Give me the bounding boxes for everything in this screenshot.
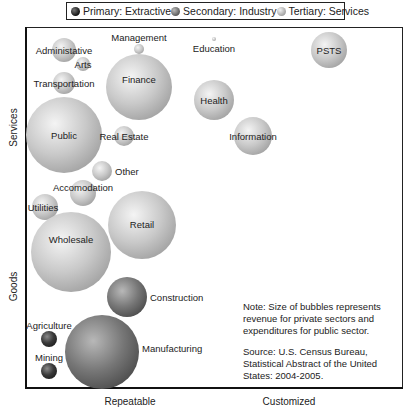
bubble-agriculture xyxy=(41,331,57,347)
bubble-label: Construction xyxy=(150,292,203,303)
legend-label: Tertiary: Services xyxy=(289,5,370,17)
bubble-construction xyxy=(107,277,147,317)
bubble-label: Retail xyxy=(130,219,154,230)
bubble-label: Accomodation xyxy=(53,182,113,193)
bubble-finance xyxy=(106,54,172,120)
bubble-label: Manufacturing xyxy=(142,343,202,354)
bubble-label: Health xyxy=(200,95,227,106)
bubble-label: Transportation xyxy=(34,78,95,89)
y-axis-label-services: Services xyxy=(8,108,19,148)
bubble-label: Other xyxy=(115,166,139,177)
legend-item-secondary: Secondary: Industry xyxy=(171,5,276,17)
legend-label: Primary: Extractive xyxy=(83,5,171,17)
bubble-label: PSTS xyxy=(317,45,342,56)
bubble-label: Mining xyxy=(35,352,63,363)
legend-label: Secondary: Industry xyxy=(183,5,276,17)
bubble-label: Information xyxy=(229,131,277,142)
chart-legend: Primary: Extractive Secondary: Industry … xyxy=(66,2,345,20)
bubble-label: Wholesale xyxy=(49,234,93,245)
legend-item-primary: Primary: Extractive xyxy=(71,5,171,17)
y-axis-label-goods: Goods xyxy=(8,269,19,305)
bubble-label: Finance xyxy=(122,74,156,85)
bubble-label: Administative xyxy=(36,45,93,56)
x-axis-label-customized: Customized xyxy=(263,396,316,407)
bubble-wholesale xyxy=(31,212,111,292)
legend-dot-icon xyxy=(71,7,80,16)
note-source-text: Source: U.S. Census Bureau, Statistical … xyxy=(243,346,403,382)
bubble-other xyxy=(92,161,112,181)
bubble-label: Education xyxy=(193,43,235,54)
y-axis-line xyxy=(25,27,27,389)
bubble-manufacturing xyxy=(65,315,139,389)
bubble-management xyxy=(134,44,144,54)
bubble-education xyxy=(212,37,216,41)
x-axis-label-repeatable: Repeatable xyxy=(104,396,155,407)
bubble-label: Real Estate xyxy=(99,131,148,142)
bubble-label: Arts xyxy=(75,59,92,70)
legend-item-tertiary: Tertiary: Services xyxy=(277,5,370,17)
bubble-mining xyxy=(41,363,57,379)
bubble-label: Public xyxy=(51,130,77,141)
chart-note: Note: Size of bubbles represents revenue… xyxy=(243,301,403,391)
legend-dot-icon xyxy=(277,7,286,16)
bubble-label: Management xyxy=(111,32,166,43)
bubble-label: Agriculture xyxy=(26,320,71,331)
bubble-label: Utilities xyxy=(28,202,59,213)
legend-dot-icon xyxy=(171,7,180,16)
note-size-text: Note: Size of bubbles represents revenue… xyxy=(243,301,403,337)
